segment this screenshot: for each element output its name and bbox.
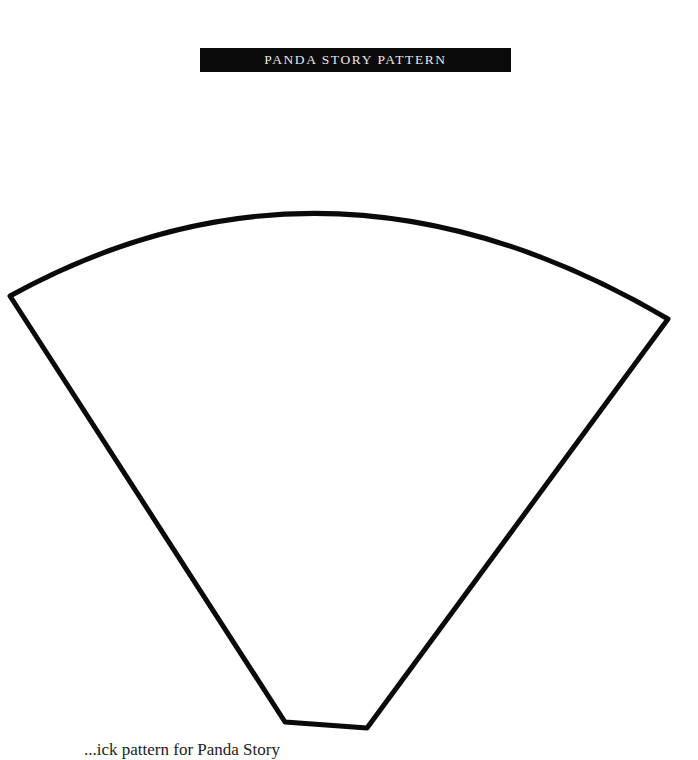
pattern-caption: ...ick pattern for Panda Story	[84, 740, 280, 760]
